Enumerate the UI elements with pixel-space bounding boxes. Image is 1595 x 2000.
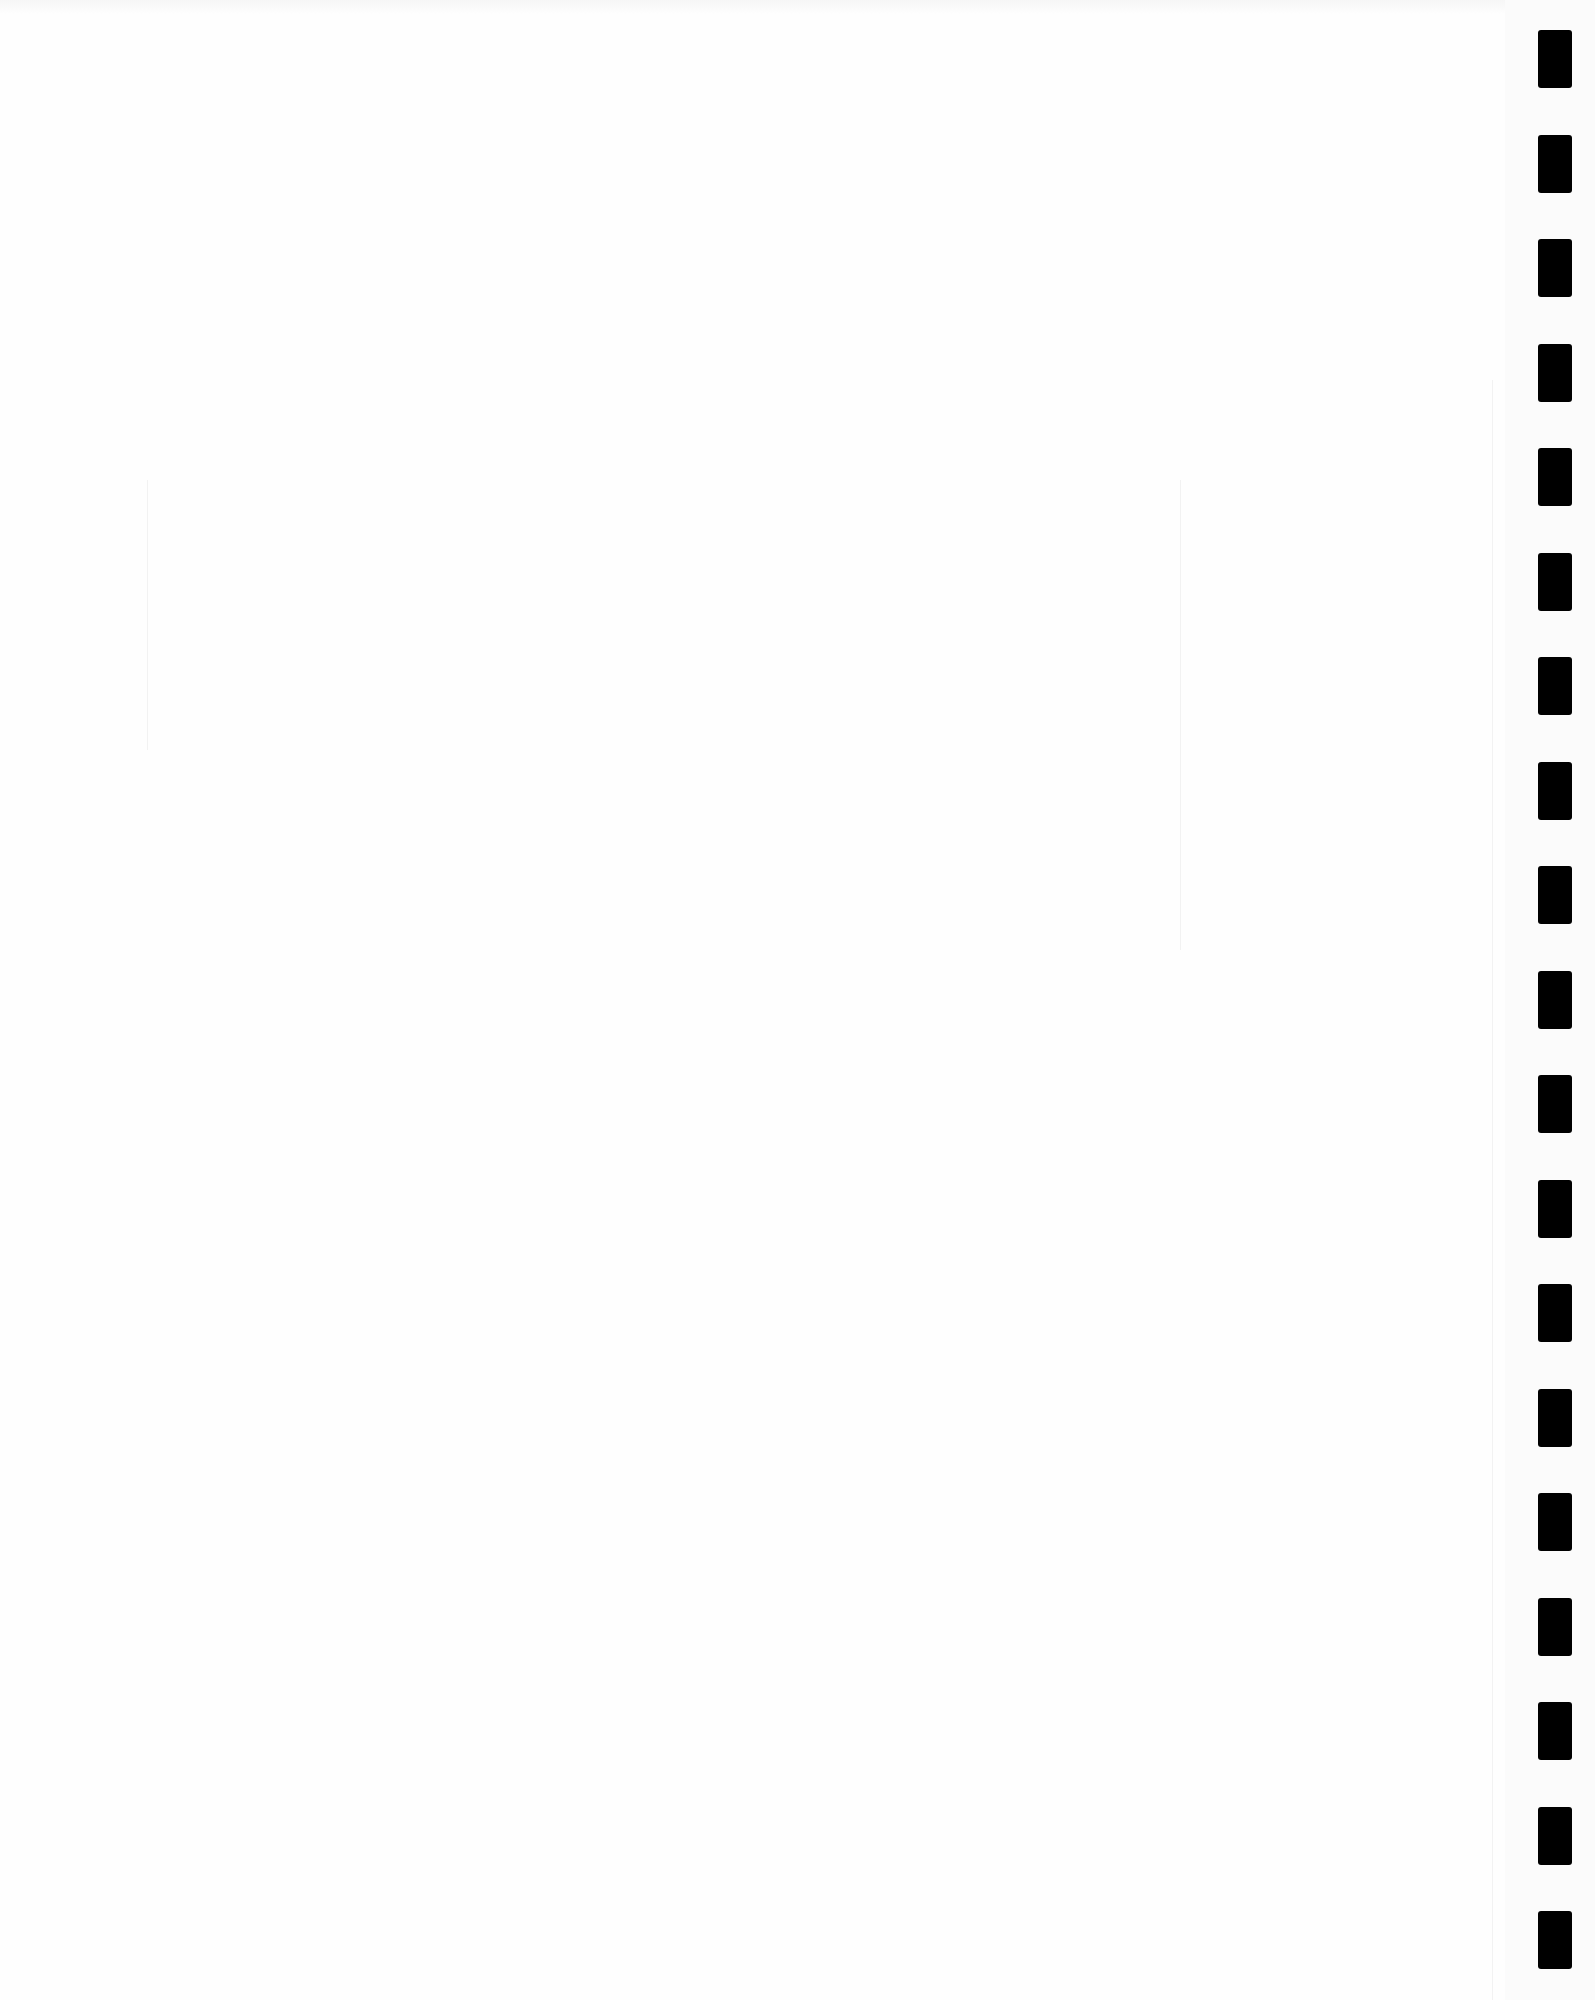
binding-hole — [1538, 1598, 1572, 1656]
binding-hole — [1538, 1702, 1572, 1760]
binding-hole — [1538, 448, 1572, 506]
binding-hole — [1538, 239, 1572, 297]
page-edge-line — [1492, 380, 1493, 2000]
binding-hole — [1538, 553, 1572, 611]
binding-hole — [1538, 1180, 1572, 1238]
binding-hole — [1538, 1284, 1572, 1342]
binding-holes — [1538, 0, 1572, 2000]
binding-hole — [1538, 1911, 1572, 1969]
binding-hole — [1538, 1493, 1572, 1551]
binding-hole — [1538, 1075, 1572, 1133]
binding-hole — [1538, 762, 1572, 820]
binding-hole — [1538, 344, 1572, 402]
binding-hole — [1538, 1389, 1572, 1447]
binding-hole — [1538, 657, 1572, 715]
binding-hole — [1538, 866, 1572, 924]
binding-hole — [1538, 30, 1572, 88]
binding-hole — [1538, 135, 1572, 193]
binding-hole — [1538, 971, 1572, 1029]
scan-artifact-line — [1180, 480, 1181, 950]
scan-artifact-line — [147, 480, 148, 750]
binding-hole — [1538, 1807, 1572, 1865]
blank-page — [0, 0, 1595, 2000]
